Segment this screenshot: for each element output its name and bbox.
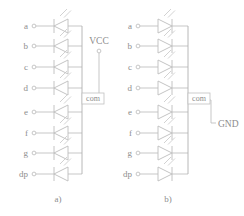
pin-label-a-b: b: [24, 41, 29, 51]
pin-label-a-dp: dp: [19, 169, 29, 179]
led-a-g: [54, 136, 71, 160]
led-b-g: [158, 136, 175, 160]
vcc-label-a: VCC: [89, 36, 109, 46]
pin-terminal-a-dp[interactable]: [32, 172, 36, 176]
pin-terminal-b-a[interactable]: [136, 24, 140, 28]
led-b-a: [158, 9, 175, 33]
pin-label-a-e: e: [24, 107, 28, 117]
com-label-a: com: [86, 94, 101, 103]
pin-label-a-d: d: [24, 83, 29, 93]
led-b-d: [158, 71, 175, 95]
pin-label-b-dp: dp: [123, 169, 133, 179]
pin-label-b-c: c: [128, 62, 132, 72]
pin-terminal-b-d[interactable]: [136, 86, 140, 90]
pin-terminal-b-f[interactable]: [136, 131, 140, 135]
pin-terminal-a-c[interactable]: [32, 65, 36, 69]
led-b-b: [158, 29, 175, 53]
pin-terminal-b-dp[interactable]: [136, 172, 140, 176]
pin-label-b-g: g: [128, 148, 133, 158]
pin-terminal-a-g[interactable]: [32, 151, 36, 155]
pin-label-b-a: a: [128, 21, 132, 31]
pin-label-b-b: b: [128, 41, 133, 51]
pin-label-b-e: e: [128, 107, 132, 117]
diagram-b: a b c d e f g dp: [123, 9, 239, 204]
led-a-e: [54, 95, 71, 119]
led-b-c: [158, 50, 175, 74]
gnd-label-b: GND: [218, 119, 239, 129]
led-b-dp: [158, 157, 175, 181]
com-label-b: com: [192, 94, 207, 103]
caption-a: a): [55, 194, 62, 204]
pin-terminal-a-f[interactable]: [32, 131, 36, 135]
pin-terminal-a-d[interactable]: [32, 86, 36, 90]
diagram-a: a b c d e f g dp: [19, 9, 109, 204]
led-a-dp: [54, 157, 71, 181]
led-b-f: [158, 116, 175, 140]
pin-terminal-a-e[interactable]: [32, 110, 36, 114]
led-a-f: [54, 116, 71, 140]
pin-terminal-b-b[interactable]: [136, 44, 140, 48]
pin-terminal-b-e[interactable]: [136, 110, 140, 114]
led-a-d: [54, 71, 71, 95]
pin-label-a-g: g: [24, 148, 29, 158]
pin-terminal-b-g[interactable]: [136, 151, 140, 155]
vcc-terminal-a[interactable]: [97, 49, 101, 53]
pin-terminal-b-c[interactable]: [136, 65, 140, 69]
pin-terminal-a-a[interactable]: [32, 24, 36, 28]
pin-label-b-f: f: [129, 128, 132, 138]
caption-b: b): [164, 194, 172, 204]
pin-terminal-a-b[interactable]: [32, 44, 36, 48]
seven-segment-led-schematic: a b c d e f g dp: [0, 0, 244, 216]
led-a-b: [54, 29, 71, 53]
pin-label-b-d: d: [128, 83, 133, 93]
led-a-c: [54, 50, 71, 74]
led-b-e: [158, 95, 175, 119]
led-a-a: [54, 9, 71, 33]
pin-label-a-c: c: [24, 62, 28, 72]
pin-label-a-f: f: [25, 128, 28, 138]
pin-label-a-a: a: [24, 21, 28, 31]
